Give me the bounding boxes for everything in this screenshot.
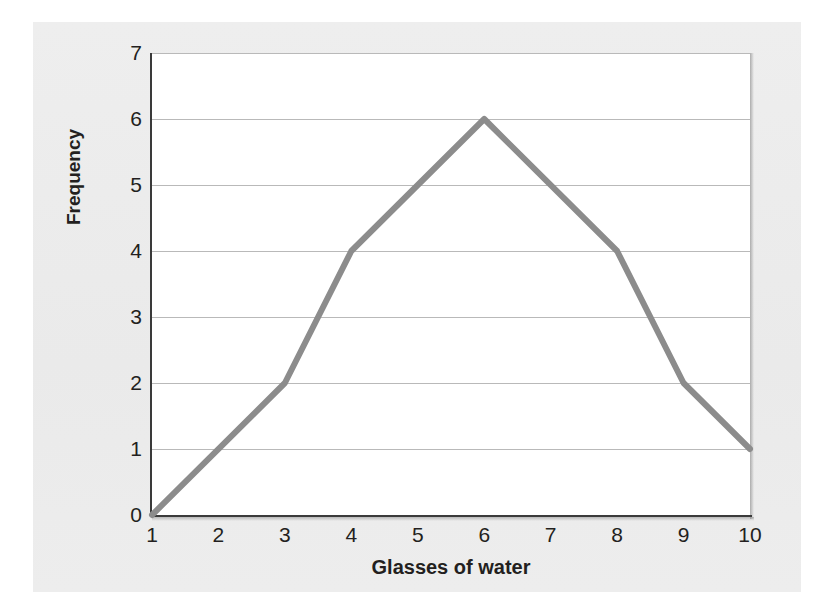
x-tick-label-1: 1: [130, 524, 174, 545]
series-polyline: [152, 119, 750, 515]
plot-area-wrapper: [152, 53, 750, 515]
x-tick-label-5: 5: [396, 524, 440, 545]
y-tick-label-3: 3: [102, 306, 142, 327]
x-tick-label-4: 4: [329, 524, 373, 545]
figure: Frequency 01234567 12345678910 Glasses o…: [0, 0, 829, 611]
x-axis-line: [150, 515, 752, 517]
plot-shadow-bottom: [152, 517, 754, 521]
x-tick-label-8: 8: [595, 524, 639, 545]
y-tick-label-4: 4: [102, 240, 142, 261]
x-tick-label-9: 9: [662, 524, 706, 545]
y-tick-label-0: 0: [102, 504, 142, 525]
y-tick-label-6: 6: [102, 108, 142, 129]
x-tick-label-3: 3: [263, 524, 307, 545]
y-tick-label-1: 1: [102, 438, 142, 459]
x-tick-label-10: 10: [728, 524, 772, 545]
frequency-polygon-series: [152, 53, 750, 515]
y-axis-title: Frequency: [63, 129, 85, 225]
y-axis-tick-labels: 01234567: [102, 53, 142, 515]
x-axis-tick-labels: 12345678910: [152, 524, 750, 554]
x-axis-title: Glasses of water: [152, 556, 750, 579]
x-tick-label-6: 6: [462, 524, 506, 545]
x-tick-label-7: 7: [529, 524, 573, 545]
y-tick-label-2: 2: [102, 372, 142, 393]
y-tick-label-7: 7: [102, 42, 142, 63]
x-tick-label-2: 2: [196, 524, 240, 545]
y-tick-label-5: 5: [102, 174, 142, 195]
